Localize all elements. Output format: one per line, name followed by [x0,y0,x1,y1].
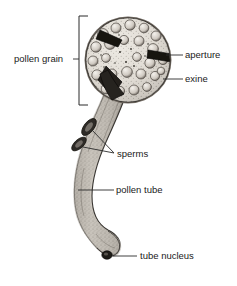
label-pollen-tube: pollen tube [116,184,162,195]
label-aperture: aperture [185,49,220,60]
pollen-grain-structure [85,17,173,104]
tube-nucleus-cell [102,251,112,259]
label-tube-nucleus: tube nucleus [140,250,194,261]
label-pollen-grain: pollen grain [14,53,63,64]
label-exine: exine [185,73,208,84]
diagram-canvas: pollen grain aperture exine sperms polle… [0,0,237,286]
label-sperms: sperms [117,148,148,159]
pollen-grain-diagram: pollen grain aperture exine sperms polle… [0,0,237,286]
